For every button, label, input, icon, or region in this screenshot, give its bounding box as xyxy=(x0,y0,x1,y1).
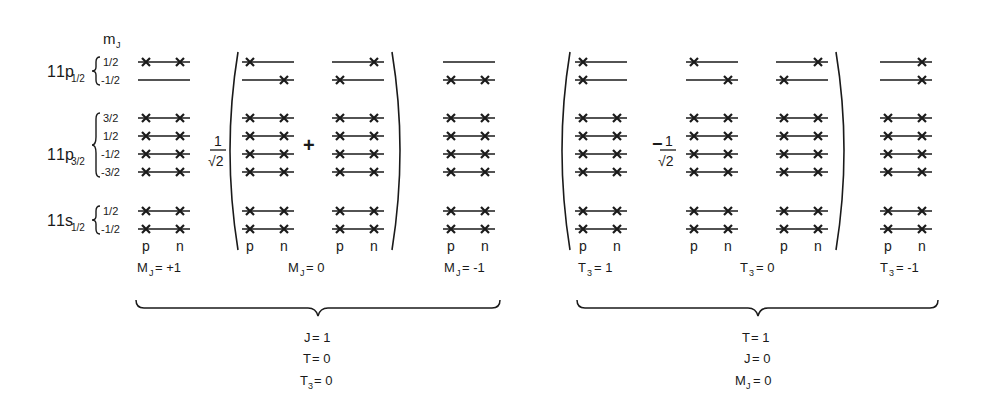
svg-text:3/2: 3/2 xyxy=(103,112,118,124)
proton-label: p xyxy=(884,238,892,254)
svg-text:J: J xyxy=(744,351,751,366)
shell-model-diagram: m J 1 1p 1/2 1 1p 3/2 1 1s 1/2 1/2 -1/2 … xyxy=(0,0,983,415)
svg-text:T: T xyxy=(742,330,750,345)
svg-text:= 1: = 1 xyxy=(594,260,612,275)
svg-text:= 0: = 0 xyxy=(752,351,770,366)
svg-text:= 1: = 1 xyxy=(312,330,330,345)
svg-text:√2: √2 xyxy=(208,153,224,169)
configuration-MJ0-a xyxy=(242,58,294,233)
svg-text:-1/2: -1/2 xyxy=(101,223,120,235)
proton-label: p xyxy=(336,238,344,254)
configuration-MJ0-b xyxy=(332,58,384,233)
svg-text:1: 1 xyxy=(214,133,222,149)
proton-label: p xyxy=(447,238,455,254)
svg-text:-1/2: -1/2 xyxy=(101,74,120,86)
svg-text:J: J xyxy=(746,381,751,391)
mj-header: m J xyxy=(103,30,121,50)
mj-values: 1/2 -1/2 3/2 1/2 -1/2 -3/2 1/2 -1/2 xyxy=(101,56,120,235)
label-mj-plus1: MJ= +1 xyxy=(137,260,181,278)
svg-text:J: J xyxy=(149,268,154,278)
shell-label-1s12: 1 1s 1/2 xyxy=(47,212,85,233)
svg-text:1/2: 1/2 xyxy=(103,130,118,142)
svg-text:√2: √2 xyxy=(658,153,674,169)
svg-text:M: M xyxy=(137,260,148,275)
svg-text:M: M xyxy=(735,373,746,388)
svg-text:= -1: = -1 xyxy=(462,260,485,275)
neutron-label: n xyxy=(176,238,184,254)
label-t3-minus1: T3= -1 xyxy=(880,260,919,278)
proton-label: p xyxy=(780,238,788,254)
minus-operator: − xyxy=(652,134,663,154)
label-mj-minus1: MJ= -1 xyxy=(444,260,485,278)
proton-label: p xyxy=(246,238,254,254)
neutron-label: n xyxy=(918,238,926,254)
configuration-T3+1 xyxy=(575,58,627,233)
proton-label: p xyxy=(142,238,150,254)
label-mj-0: MJ= 0 xyxy=(288,260,324,278)
shell-label-1p12: 1 1p 1/2 xyxy=(47,63,85,84)
neutron-label: n xyxy=(481,238,489,254)
svg-text:1: 1 xyxy=(47,146,56,163)
svg-text:T: T xyxy=(880,260,888,275)
svg-text:= -1: = -1 xyxy=(896,260,919,275)
neutron-label: n xyxy=(814,238,822,254)
configuration-T3_0-a xyxy=(686,58,738,233)
pn-labels: pnpnpnpnpnpnpnpn xyxy=(142,238,926,254)
svg-text:3/2: 3/2 xyxy=(71,156,85,167)
neutron-label: n xyxy=(613,238,621,254)
neutron-label: n xyxy=(370,238,378,254)
right-group-quantum-numbers: T = 1 J = 0 M J = 0 xyxy=(735,330,771,391)
svg-text:1/2: 1/2 xyxy=(103,205,118,217)
proton-label: p xyxy=(690,238,698,254)
shell-label-1p32: 1 1p 3/2 xyxy=(47,146,85,167)
svg-text:J: J xyxy=(116,40,121,50)
plus-operator: + xyxy=(303,134,315,156)
svg-text:m: m xyxy=(103,30,116,47)
svg-text:= +1: = +1 xyxy=(155,260,181,275)
svg-text:1/2: 1/2 xyxy=(103,56,118,68)
parentheses xyxy=(230,52,844,250)
shell-braces xyxy=(92,57,100,234)
svg-text:1: 1 xyxy=(665,133,673,149)
proton-label: p xyxy=(579,238,587,254)
svg-text:= 0: = 0 xyxy=(312,351,330,366)
configuration-MJ+1 xyxy=(138,58,190,233)
svg-text:= 0: = 0 xyxy=(753,373,771,388)
label-t3-0: T3= 0 xyxy=(740,260,774,278)
svg-text:= 1: = 1 xyxy=(751,330,769,345)
group-underbraces xyxy=(136,300,938,316)
svg-text:1: 1 xyxy=(47,212,56,229)
svg-text:3: 3 xyxy=(587,268,592,278)
neutron-label: n xyxy=(280,238,288,254)
svg-text:1: 1 xyxy=(47,63,56,80)
svg-text:T: T xyxy=(740,260,748,275)
svg-text:= 0: = 0 xyxy=(756,260,774,275)
svg-text:J: J xyxy=(304,330,311,345)
svg-text:= 0: = 0 xyxy=(314,373,332,388)
svg-text:= 0: = 0 xyxy=(306,260,324,275)
column-labels: MJ= +1 MJ= 0 MJ= -1 T3= 1 T3= 0 T3= -1 xyxy=(137,260,919,278)
svg-text:J: J xyxy=(300,268,305,278)
svg-text:T: T xyxy=(578,260,586,275)
configuration-T3-1 xyxy=(880,58,932,233)
svg-text:J: J xyxy=(456,268,461,278)
neutron-label: n xyxy=(724,238,732,254)
left-group-quantum-numbers: J = 1 T = 0 T 3 = 0 xyxy=(300,330,332,391)
svg-text:1/2: 1/2 xyxy=(71,222,85,233)
svg-text:-3/2: -3/2 xyxy=(101,166,120,178)
svg-text:3: 3 xyxy=(889,268,894,278)
configuration-columns xyxy=(138,58,932,233)
svg-text:T: T xyxy=(300,373,308,388)
prefactor-left: 1 √2 xyxy=(208,133,226,169)
svg-text:-1/2: -1/2 xyxy=(101,148,120,160)
configuration-MJ-1 xyxy=(443,62,495,233)
svg-text:M: M xyxy=(444,260,455,275)
label-t3-plus1: T3= 1 xyxy=(578,260,612,278)
svg-text:1/2: 1/2 xyxy=(71,73,85,84)
svg-text:M: M xyxy=(288,260,299,275)
configuration-T3_0-b xyxy=(776,58,828,233)
svg-text:3: 3 xyxy=(749,268,754,278)
svg-text:T: T xyxy=(303,351,311,366)
svg-text:3: 3 xyxy=(308,381,313,391)
